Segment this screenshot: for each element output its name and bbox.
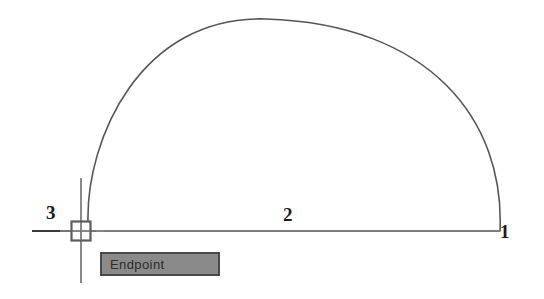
endpoint-snap-marker[interactable] bbox=[72, 222, 91, 241]
arc-entity[interactable] bbox=[88, 19, 500, 231]
endpoint-snap-tooltip-label: Endpoint bbox=[110, 257, 165, 272]
endpoint-snap-tooltip: Endpoint bbox=[100, 252, 220, 276]
drawing-canvas bbox=[0, 0, 544, 299]
vertex-label-3: 3 bbox=[46, 203, 56, 222]
cad-drawing-viewport[interactable]: 3 2 1 Endpoint bbox=[0, 0, 544, 299]
vertex-label-1: 1 bbox=[500, 222, 510, 241]
vertex-label-2: 2 bbox=[283, 205, 293, 224]
